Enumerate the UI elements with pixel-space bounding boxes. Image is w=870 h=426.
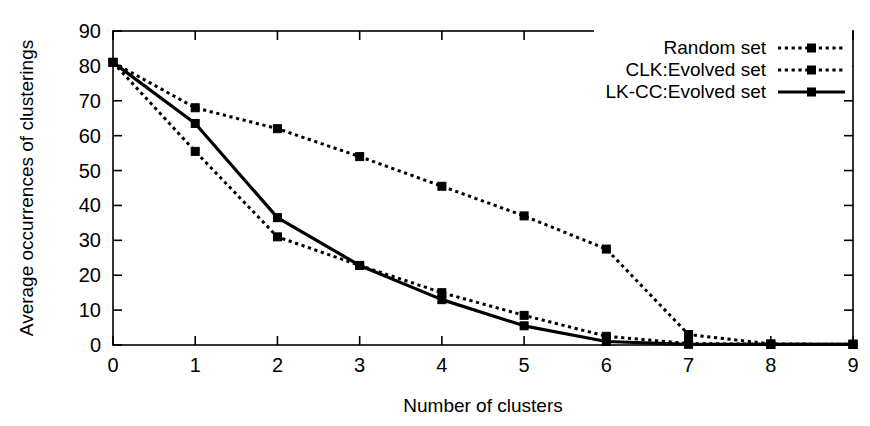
x-tick-label: 8 xyxy=(765,354,776,376)
x-tick-label: 5 xyxy=(519,354,530,376)
x-tick-label: 1 xyxy=(190,354,201,376)
data-point-marker xyxy=(191,119,199,127)
data-point-marker xyxy=(273,214,281,222)
data-point-marker xyxy=(602,245,610,253)
x-tick-label: 0 xyxy=(107,354,118,376)
data-point-marker xyxy=(520,212,528,220)
data-point-marker xyxy=(849,340,857,348)
data-point-marker xyxy=(438,182,446,190)
chart-figure: 0102030405060708090 0123456789 Average o… xyxy=(0,0,870,426)
data-point-marker xyxy=(520,311,528,319)
line-chart: 0102030405060708090 0123456789 Average o… xyxy=(0,0,870,426)
data-point-marker xyxy=(273,125,281,133)
data-point-marker xyxy=(685,331,693,339)
data-point-marker xyxy=(356,153,364,161)
legend-item-label: CLK:Evolved set xyxy=(626,59,767,80)
data-point-marker xyxy=(685,340,693,348)
legend-marker-sample xyxy=(808,88,816,96)
data-point-marker xyxy=(602,338,610,346)
x-tick-label: 6 xyxy=(601,354,612,376)
y-tick-label: 30 xyxy=(79,229,101,251)
x-tick-label: 3 xyxy=(354,354,365,376)
x-tick-label: 9 xyxy=(847,354,858,376)
data-point-marker xyxy=(109,58,117,66)
y-tick-label: 0 xyxy=(90,334,101,356)
data-point-marker xyxy=(273,233,281,241)
y-axis-title: Average occurrences of clusterings xyxy=(16,40,37,336)
data-point-marker xyxy=(767,340,775,348)
y-tick-label: 80 xyxy=(79,55,101,77)
legend-marker-sample xyxy=(808,44,816,52)
x-tick-label: 4 xyxy=(436,354,447,376)
y-tick-label: 90 xyxy=(79,20,101,42)
x-tick-label: 2 xyxy=(272,354,283,376)
data-point-marker xyxy=(191,104,199,112)
y-tick-label: 60 xyxy=(79,125,101,147)
y-tick-label: 70 xyxy=(79,90,101,112)
legend-marker-sample xyxy=(808,66,816,74)
data-point-marker xyxy=(438,296,446,304)
y-tick-label: 50 xyxy=(79,160,101,182)
x-tick-label: 7 xyxy=(683,354,694,376)
data-point-marker xyxy=(191,147,199,155)
data-point-marker xyxy=(356,261,364,269)
y-tick-label: 20 xyxy=(79,264,101,286)
x-axis-title: Number of clusters xyxy=(403,395,562,416)
y-tick-label: 10 xyxy=(79,299,101,321)
data-point-marker xyxy=(520,322,528,330)
chart-legend: Random setCLK:Evolved setLK-CC:Evolved s… xyxy=(594,28,852,102)
y-tick-label: 40 xyxy=(79,194,101,216)
legend-item-label: Random set xyxy=(664,37,767,58)
legend-item-label: LK-CC:Evolved set xyxy=(605,81,766,102)
